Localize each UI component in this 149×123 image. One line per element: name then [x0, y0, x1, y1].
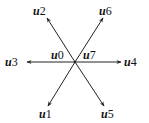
- vector-u1-arrow: [48, 62, 75, 106]
- label-u2: u2: [33, 4, 46, 18]
- label-u7: u7: [83, 48, 96, 62]
- vector-u5-arrow: [75, 62, 104, 106]
- space-vector-diagram: u2 u6 u3 u4 u0 u7 u1 u5: [0, 0, 149, 123]
- label-u6: u6: [99, 4, 112, 18]
- origin-point: [74, 61, 76, 63]
- label-u1: u1: [39, 107, 52, 121]
- label-u3: u3: [5, 55, 18, 69]
- label-u4: u4: [124, 55, 137, 69]
- label-u5: u5: [101, 107, 114, 121]
- label-u0: u0: [51, 48, 64, 62]
